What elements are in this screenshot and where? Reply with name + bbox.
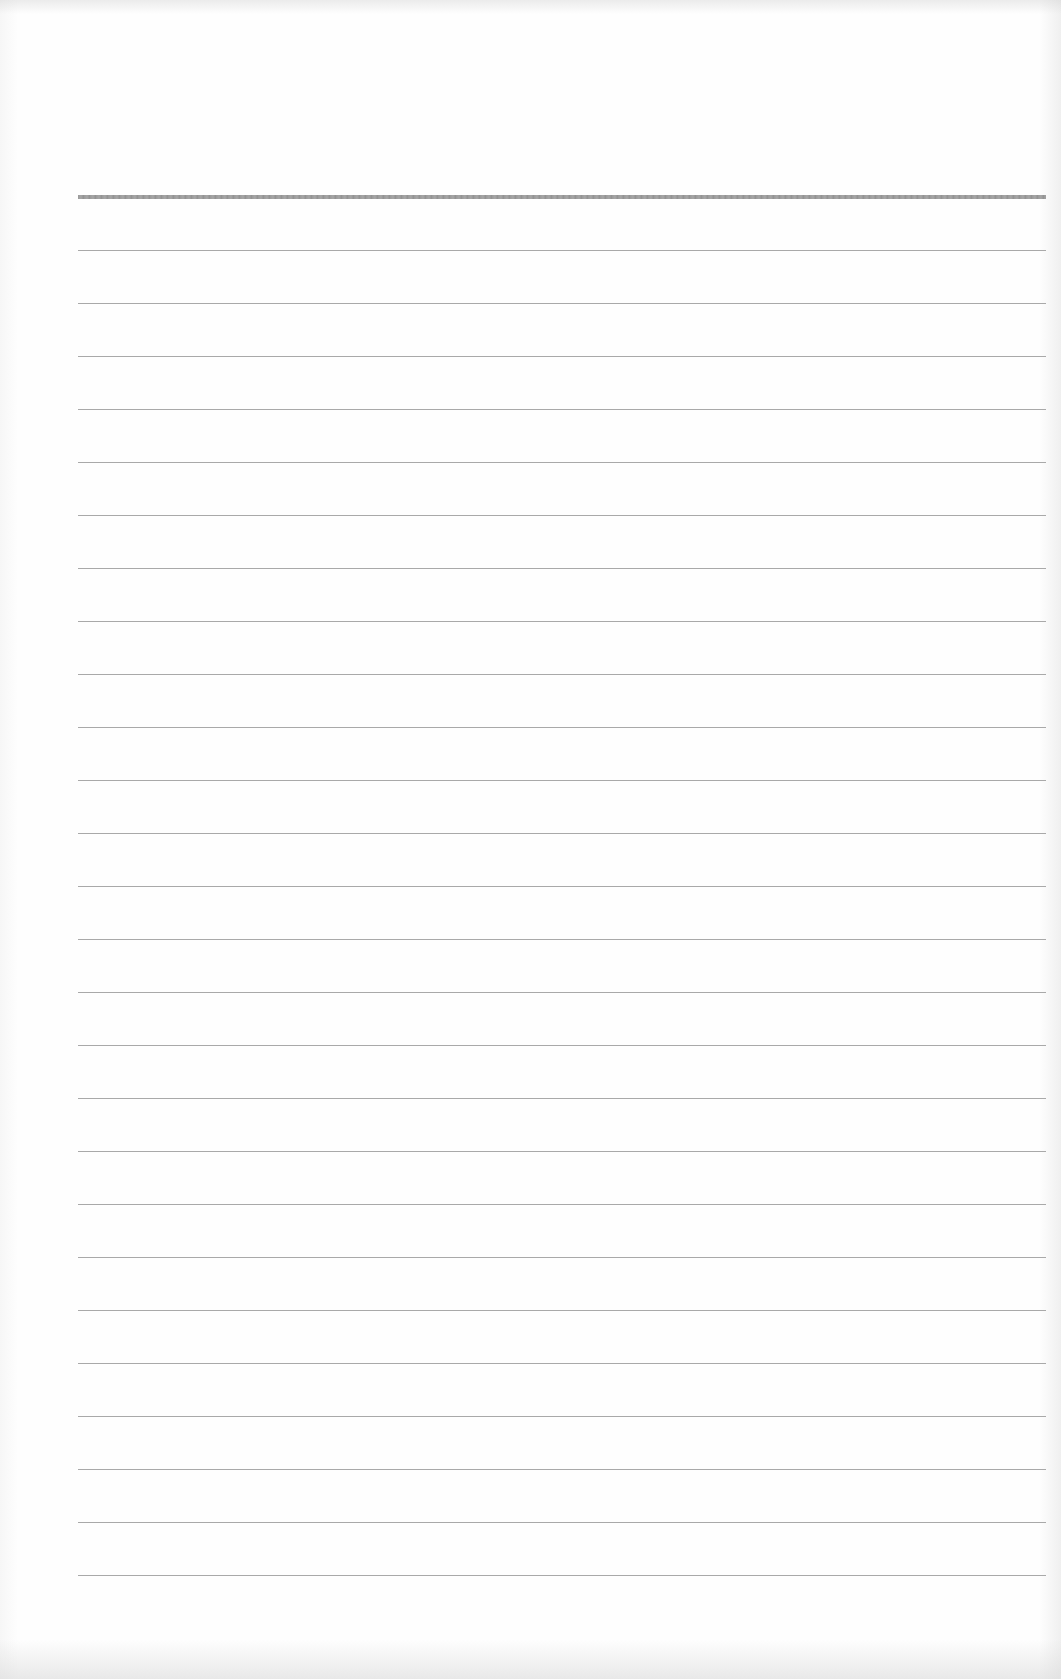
ruled-line: [78, 250, 1046, 251]
ruled-line: [78, 780, 1046, 781]
header-rule: [78, 195, 1046, 199]
ruled-line: [78, 1098, 1046, 1099]
ruled-line: [78, 303, 1046, 304]
ruled-line: [78, 1151, 1046, 1152]
ruled-line: [78, 1045, 1046, 1046]
ruled-line: [78, 621, 1046, 622]
ruled-line: [78, 568, 1046, 569]
ruled-line: [78, 939, 1046, 940]
ruled-line: [78, 992, 1046, 993]
ruled-line: [78, 674, 1046, 675]
ruled-line: [78, 1363, 1046, 1364]
ruled-line: [78, 515, 1046, 516]
ruled-line: [78, 1416, 1046, 1417]
ruled-line: [78, 1257, 1046, 1258]
ruled-line: [78, 886, 1046, 887]
ruled-line: [78, 727, 1046, 728]
ruled-line: [78, 1204, 1046, 1205]
ruled-line: [78, 833, 1046, 834]
lined-paper-page: [0, 0, 1061, 1679]
ruled-line: [78, 409, 1046, 410]
ruled-line: [78, 1522, 1046, 1523]
ruled-line: [78, 1575, 1046, 1576]
ruled-line: [78, 1469, 1046, 1470]
ruled-line: [78, 462, 1046, 463]
ruled-line: [78, 1310, 1046, 1311]
ruled-line: [78, 356, 1046, 357]
